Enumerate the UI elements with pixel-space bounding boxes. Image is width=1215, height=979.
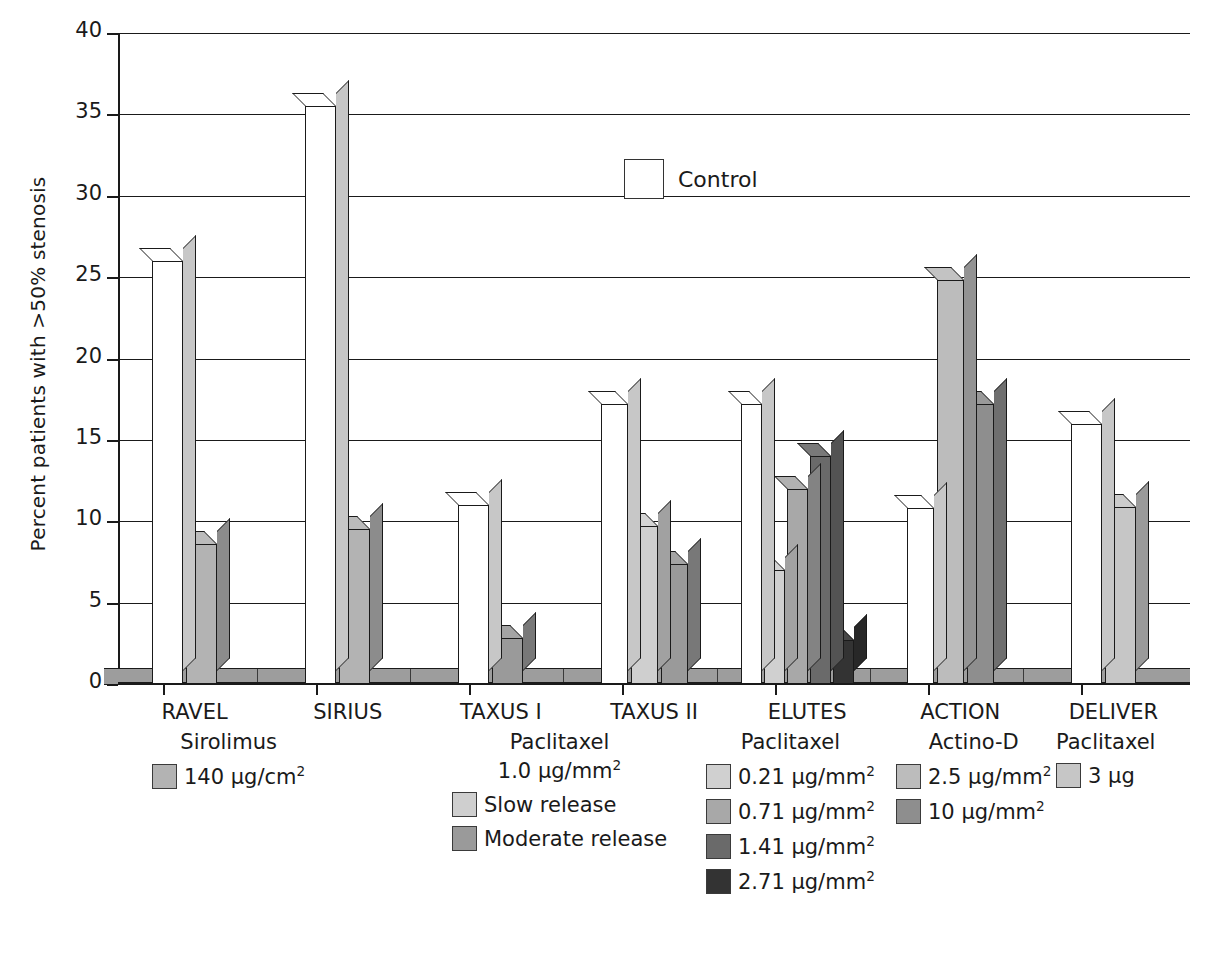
legend-group-action: Actino-D2.5 µg/mm210 µg/mm2	[896, 730, 1051, 824]
legend-group-title: Paclitaxel	[452, 730, 667, 754]
bar-side-face	[217, 518, 230, 671]
bar-top-face	[924, 267, 964, 280]
x-category-label-elutes: ELUTES	[731, 700, 884, 724]
legend-group-ravel: Sirolimus140 µg/cm2	[152, 730, 305, 789]
legend-item[interactable]: Slow release	[452, 792, 667, 817]
x-category-label-taxus-ii: TAXUS II	[577, 700, 730, 724]
bar[interactable]	[601, 404, 628, 684]
bar-top-face	[797, 443, 831, 456]
bar-front-face	[458, 505, 489, 684]
bar-front-face	[1071, 424, 1102, 684]
legend-swatch	[152, 764, 177, 789]
y-tick-mark	[107, 440, 118, 442]
bar-top-face	[588, 391, 628, 404]
legend-group-subtitle: 1.0 µg/mm2	[452, 757, 667, 783]
legend-swatch	[896, 799, 921, 824]
legend-item-label: 2.71 µg/mm2	[738, 868, 875, 894]
y-axis-line	[118, 33, 120, 684]
gridline	[118, 277, 1190, 278]
bar[interactable]	[907, 508, 934, 684]
bar-top-face	[894, 495, 934, 508]
legend-item-label: 3 µg	[1088, 764, 1135, 788]
bar-side-face	[658, 500, 671, 671]
legend-group-title: Actino-D	[896, 730, 1051, 754]
plot-area: Control	[118, 33, 1190, 684]
legend-item[interactable]: Moderate release	[452, 826, 667, 851]
y-tick-label: 20	[42, 344, 102, 368]
bar[interactable]	[152, 261, 183, 684]
bar-front-face	[305, 106, 336, 684]
bar-front-face	[601, 404, 628, 684]
legend-group-title: Paclitaxel	[706, 730, 875, 754]
legend-item-label: 0.21 µg/mm2	[738, 763, 875, 789]
y-tick-label: 15	[42, 425, 102, 449]
y-tick-label: 25	[42, 262, 102, 286]
y-tick-mark	[107, 33, 118, 35]
bar[interactable]	[1071, 424, 1102, 684]
legend-item[interactable]: 2.5 µg/mm2	[896, 763, 1051, 789]
legend-item-label: 10 µg/mm2	[928, 798, 1045, 824]
bar-front-face	[152, 261, 183, 684]
bar-side-face	[964, 254, 977, 671]
legend-item[interactable]: 10 µg/mm2	[896, 798, 1051, 824]
legend-swatch	[452, 792, 477, 817]
x-tick-mark	[928, 684, 930, 695]
y-tick-mark	[107, 196, 118, 198]
legend-group-deliver: Paclitaxel3 µg	[1056, 730, 1155, 788]
y-tick-mark	[107, 277, 118, 279]
legend-item-label: Slow release	[484, 793, 616, 817]
x-category-label-taxus-i: TAXUS I	[424, 700, 577, 724]
bar[interactable]	[741, 404, 762, 684]
x-category-label-sirius: SIRIUS	[271, 700, 424, 724]
bar-top-face	[292, 93, 336, 106]
legend-item[interactable]: 1.41 µg/mm2	[706, 833, 875, 859]
x-tick-mark	[1081, 684, 1083, 695]
x-category-label-deliver: DELIVER	[1037, 700, 1190, 724]
bar-side-face	[785, 544, 798, 671]
x-tick-mark	[775, 684, 777, 695]
bar-side-face	[489, 479, 502, 671]
bar-side-face	[688, 538, 701, 671]
bar[interactable]	[305, 106, 336, 684]
legend-swatch	[706, 869, 731, 894]
bar-side-face	[934, 482, 947, 671]
legend-control[interactable]: Control	[624, 159, 758, 199]
legend-item-label: 1.41 µg/mm2	[738, 833, 875, 859]
gridline	[118, 114, 1190, 115]
y-tick-label: 5	[42, 588, 102, 612]
bar-side-face	[854, 614, 867, 671]
bar-side-face	[831, 430, 844, 671]
legend-item[interactable]: 0.21 µg/mm2	[706, 763, 875, 789]
legend-swatch	[1056, 763, 1081, 788]
y-tick-label: 10	[42, 506, 102, 530]
legend-item[interactable]: 2.71 µg/mm2	[706, 868, 875, 894]
legend-swatch	[706, 834, 731, 859]
bar-side-face	[808, 463, 821, 671]
x-tick-mark	[316, 684, 318, 695]
legend-swatch	[706, 799, 731, 824]
bar-front-face	[741, 404, 762, 684]
bar-top-face	[774, 476, 808, 489]
legend-item-label: 2.5 µg/mm2	[928, 763, 1051, 789]
x-tick-mark	[163, 684, 165, 695]
y-tick-label: 35	[42, 99, 102, 123]
bar-side-face	[1102, 398, 1115, 671]
bar[interactable]	[458, 505, 489, 684]
legend-item[interactable]: 140 µg/cm2	[152, 763, 305, 789]
legend-control-label: Control	[678, 167, 758, 192]
legend-group-title: Paclitaxel	[1056, 730, 1155, 754]
gridline	[118, 33, 1190, 34]
y-tick-label: 40	[42, 18, 102, 42]
chart-root: Percent patients with >50% stenosis 0510…	[0, 0, 1215, 979]
legend-item[interactable]: 0.71 µg/mm2	[706, 798, 875, 824]
bar-side-face	[336, 80, 349, 671]
legend-group-taxus: Paclitaxel1.0 µg/mm2Slow releaseModerate…	[452, 730, 667, 851]
legend-item-label: 0.71 µg/mm2	[738, 798, 875, 824]
bar-side-face	[628, 378, 641, 671]
bar-top-face	[1058, 411, 1102, 424]
y-tick-mark	[107, 114, 118, 116]
bar-top-face	[139, 248, 183, 261]
legend-group-title: Sirolimus	[152, 730, 305, 754]
legend-item[interactable]: 3 µg	[1056, 763, 1155, 788]
bar-top-face	[445, 492, 489, 505]
